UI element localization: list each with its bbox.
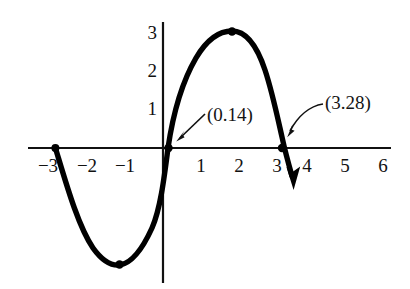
curve-end-arrow-icon bbox=[286, 167, 300, 191]
x-tick-label-4: 4 bbox=[302, 156, 312, 175]
point-root-first bbox=[164, 144, 172, 152]
annotation-label-second-root: (3.28) bbox=[325, 93, 371, 112]
y-tick-label-3: 3 bbox=[148, 23, 158, 42]
annotation-label-first-root: (0.14) bbox=[207, 105, 253, 124]
point-minimum bbox=[115, 260, 123, 268]
y-tick-label-1: 1 bbox=[148, 99, 158, 118]
graph-figure: 3 2 1 −3 −2 −1 1 2 3 4 5 6 (0.14) (3.28) bbox=[0, 0, 410, 289]
x-tick-label-neg3: −3 bbox=[38, 156, 58, 175]
x-tick-label-neg1: −1 bbox=[115, 156, 135, 175]
y-tick-label-2: 2 bbox=[148, 61, 158, 80]
x-tick-label-6: 6 bbox=[378, 156, 388, 175]
point-left-endpoint bbox=[51, 144, 59, 152]
point-root-second bbox=[278, 144, 286, 152]
x-tick-label-neg2: −2 bbox=[77, 156, 97, 175]
x-tick-label-5: 5 bbox=[340, 156, 350, 175]
x-tick-label-1: 1 bbox=[196, 156, 206, 175]
x-tick-label-3: 3 bbox=[272, 156, 282, 175]
annotation-arrow-second-root-shaft bbox=[290, 104, 323, 131]
x-tick-label-2: 2 bbox=[234, 156, 244, 175]
cubic-curve-plot bbox=[0, 0, 410, 289]
point-maximum bbox=[228, 27, 236, 35]
annotation-arrow-first-root-head bbox=[176, 130, 184, 141]
annotation-arrow-first-root-shaft bbox=[180, 114, 205, 138]
